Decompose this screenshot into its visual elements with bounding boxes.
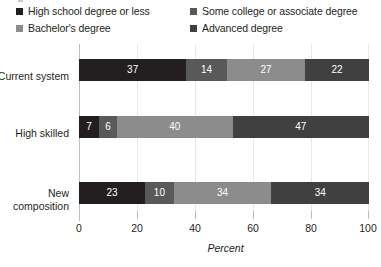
table-row: 7 6 40 47 (79, 116, 369, 138)
x-axis-tick (79, 211, 80, 219)
legend-item-label: High school degree or less (28, 4, 150, 18)
y-axis-label-new-composition: New composition (0, 187, 69, 213)
x-axis-tick-label: 0 (76, 222, 82, 234)
bar-segment: 14 (186, 59, 227, 81)
bar-segment: 40 (117, 116, 233, 138)
x-axis-title-wrapper: Percent (0, 242, 381, 254)
y-axis-label-line: composition (0, 200, 69, 213)
bar-segment: 34 (174, 182, 272, 204)
table-row: 23 10 34 34 (79, 182, 369, 204)
x-axis-tick-label: 60 (247, 222, 259, 234)
bar-segment: 6 (99, 116, 116, 138)
legend-swatch-icon (190, 8, 197, 15)
x-axis-title: Percent (137, 242, 243, 254)
bar-segment: 34 (271, 182, 369, 204)
y-axis-label-line: New (0, 187, 69, 200)
y-axis-label-current-system: Current system (0, 70, 69, 83)
y-axis-label-line: High skilled (0, 127, 69, 140)
x-axis-tick (137, 211, 138, 219)
legend-swatch-icon (16, 8, 23, 15)
legend-swatch-icon (16, 25, 23, 32)
legend-item-bachelors-degree: Bachelor's degree (16, 21, 111, 35)
x-axis-tick-label: 80 (305, 222, 317, 234)
stacked-bar-chart: High school degree or less Some college … (0, 0, 381, 267)
bar-segment: 37 (79, 59, 186, 81)
legend-item-advanced-degree: Advanced degree (190, 21, 283, 35)
bar-segment: 27 (227, 59, 305, 81)
table-row: 37 14 27 22 (79, 59, 369, 81)
x-axis-tick (368, 211, 369, 219)
bar-segment: 10 (145, 182, 174, 204)
legend-item-label: Some college or associate degree (202, 4, 358, 18)
x-axis-tick-label: 40 (189, 222, 201, 234)
bar-segment: 22 (305, 59, 369, 81)
x-axis-tick (195, 211, 196, 219)
x-axis-tick-label: 20 (131, 222, 143, 234)
legend-item-label: Advanced degree (202, 21, 283, 35)
bar-segment: 23 (79, 182, 145, 204)
y-axis-label-line: Current system (0, 70, 69, 83)
bar-segment: 7 (79, 116, 99, 138)
x-axis-tick (311, 211, 312, 219)
chart-legend: High school degree or less Some college … (0, 4, 381, 38)
legend-swatch-icon (190, 25, 197, 32)
x-axis-tick-label: 100 (359, 222, 377, 234)
cropped-mark (18, 0, 23, 2)
bar-segment: 47 (233, 116, 369, 138)
plot-area: 37 14 27 22 7 6 40 47 23 10 34 34 (79, 44, 369, 211)
y-axis-label-high-skilled: High skilled (0, 127, 69, 140)
legend-item-some-college-or-associate-degree: Some college or associate degree (190, 4, 358, 18)
x-axis-tick (253, 211, 254, 219)
legend-item-label: Bachelor's degree (28, 21, 111, 35)
legend-item-high-school-degree-or-less: High school degree or less (16, 4, 150, 18)
